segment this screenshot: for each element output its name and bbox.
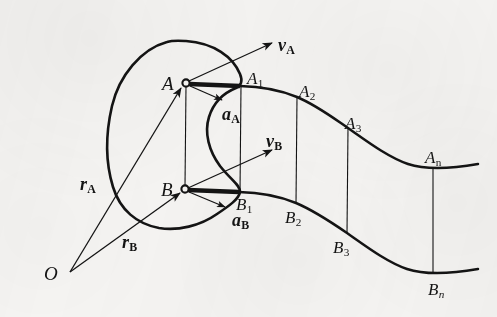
connector-A3-B3 <box>347 128 348 233</box>
kinematics-figure: A B A1 A2 A3 An B1 B2 B3 Bn O rA rB vA v… <box>0 0 497 317</box>
point-marker-B <box>181 185 188 192</box>
point-label-Bn: Bn <box>428 281 444 300</box>
segment-A-A1 <box>189 84 240 86</box>
point-label-B: B <box>161 180 173 199</box>
point-label-A: A <box>162 74 174 93</box>
connector-A1-B1 <box>240 86 241 192</box>
trajectory-B-path <box>239 192 478 273</box>
point-label-B2: B2 <box>285 209 301 228</box>
vector-vB <box>188 150 272 188</box>
vector-aA <box>190 86 222 100</box>
vector-label-rB: rB <box>122 233 137 254</box>
figure-canvas <box>0 0 497 317</box>
vector-label-vA: vA <box>278 36 295 57</box>
vector-label-aB: aB <box>232 211 249 232</box>
segment-B-B1 <box>188 190 239 192</box>
point-label-An: An <box>425 149 441 168</box>
point-label-A3: A3 <box>345 115 361 134</box>
connector-A-B <box>185 86 186 186</box>
point-label-B3: B3 <box>333 239 349 258</box>
origin-label-O: O <box>44 264 58 283</box>
point-label-A2: A2 <box>299 83 315 102</box>
vector-label-rA: rA <box>80 175 96 196</box>
vector-aB <box>189 192 225 207</box>
vector-label-aA: aA <box>222 105 240 126</box>
vector-label-vB: vB <box>266 132 282 153</box>
point-marker-A <box>182 79 189 86</box>
connector-A2-B2 <box>296 97 297 203</box>
point-label-A1: A1 <box>247 70 263 89</box>
rigid-body-outline <box>107 41 241 229</box>
